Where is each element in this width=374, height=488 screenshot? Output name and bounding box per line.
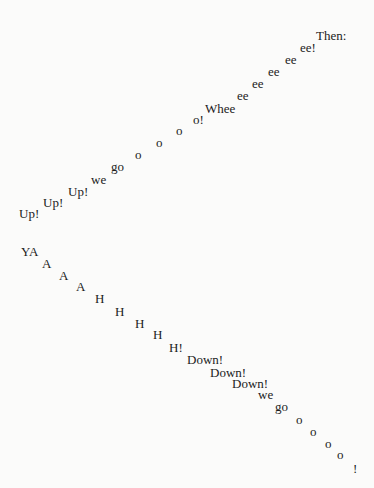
poem-word: H! [169, 341, 183, 354]
poem-word: H [115, 305, 124, 318]
poem-word: o [176, 124, 183, 137]
poem-word: o! [193, 113, 204, 126]
poem-word: ee [252, 77, 264, 90]
poem-word: o [135, 148, 142, 161]
poem-word: A [42, 257, 51, 270]
poem-word: we [258, 388, 273, 401]
poem-word: Up! [68, 185, 88, 198]
poem-word: we [91, 173, 106, 186]
poem-word: o [337, 448, 344, 461]
poem-word: A [76, 280, 85, 293]
poem-word: go [275, 400, 288, 413]
poem-word: o [325, 437, 332, 450]
poem-word: o [310, 425, 317, 438]
poem-word: Up! [43, 196, 63, 209]
poem-word: H [135, 317, 144, 330]
poem-word: H [153, 328, 162, 341]
poem-word: Then: [316, 29, 346, 42]
poem-word: ee [268, 65, 280, 78]
poem-word: A [59, 269, 68, 282]
poem-word: go [111, 160, 124, 173]
poem-word: ee [285, 53, 297, 66]
poem-word: o [156, 136, 163, 149]
concrete-poem-page: Then: ee! ee ee ee ee Whee o! o o o go w… [0, 0, 374, 488]
poem-word: YA [21, 245, 38, 258]
poem-word: ee! [300, 41, 316, 54]
poem-word: H [95, 292, 104, 305]
poem-word: ee [237, 89, 249, 102]
poem-word: ! [353, 462, 357, 475]
poem-word: Up! [19, 207, 39, 220]
poem-word: o [296, 413, 303, 426]
poem-word: Whee [205, 102, 235, 115]
